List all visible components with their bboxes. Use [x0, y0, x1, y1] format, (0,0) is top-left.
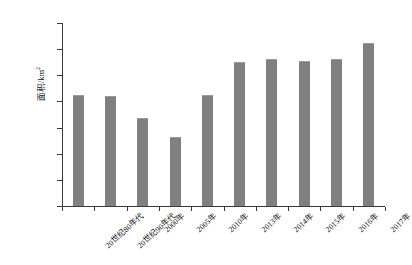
x-axis-tick-labels: 20世纪80年代20世纪90年代2000年2005年2010年2013年2014…: [62, 210, 385, 265]
y-axis-tick: [57, 75, 62, 76]
y-axis-tick: [57, 154, 62, 155]
bar: [73, 95, 84, 206]
plot-area: [62, 23, 385, 207]
bar: [331, 59, 342, 206]
y-axis-title-text: 面积/km: [36, 70, 46, 101]
bar: [170, 137, 181, 206]
x-axis-tick-label: 2010年: [226, 210, 251, 234]
bar: [363, 43, 374, 206]
bar: [137, 118, 148, 206]
bar: [234, 62, 245, 206]
x-axis-tick-label: 2014年: [290, 210, 315, 234]
x-axis-tick-label: 2005年: [193, 210, 218, 234]
y-axis-title-superscript: 2: [35, 67, 41, 70]
y-axis-line: [62, 23, 63, 207]
y-axis-tick: [57, 128, 62, 129]
x-axis-tick-label: 2015年: [322, 210, 347, 234]
x-axis-tick-label: 2017年: [387, 210, 412, 234]
y-axis-tick: [57, 101, 62, 102]
bar: [266, 59, 277, 206]
x-axis-tick-label: 2013年: [258, 210, 283, 234]
y-axis-tick: [57, 180, 62, 181]
y-axis-tick: [57, 49, 62, 50]
bar: [105, 96, 116, 206]
x-axis-tick-label: 2016年: [355, 210, 380, 234]
bar: [299, 61, 310, 206]
x-axis-tick: [385, 207, 386, 211]
y-axis-title: 面积/km2: [34, 54, 46, 114]
bar: [202, 95, 213, 206]
y-axis-tick: [57, 23, 62, 24]
